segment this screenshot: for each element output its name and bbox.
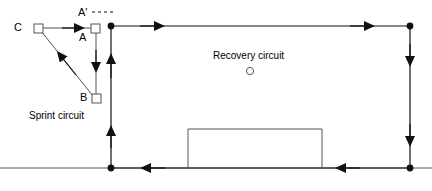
track-corner-dots xyxy=(108,23,414,172)
corner-dot-top-left xyxy=(108,23,115,30)
sprint-circuit xyxy=(34,12,116,103)
infield-box xyxy=(188,129,322,168)
sprint-node-b-marker xyxy=(92,94,101,103)
circuit-diagram-svg xyxy=(0,0,432,191)
label-node-c: C xyxy=(14,22,22,33)
label-node-a: A xyxy=(79,32,86,43)
label-sprint-circuit: Sprint circuit xyxy=(29,111,84,121)
label-recovery-circuit: Recovery circuit xyxy=(213,51,284,61)
label-node-b: B xyxy=(80,92,87,103)
sprint-node-a-marker xyxy=(91,24,100,33)
diagram-canvas: C A A' B Sprint circuit Recovery circuit xyxy=(0,0,432,191)
recovery-circuit-marker xyxy=(246,67,253,74)
corner-dot-top-right xyxy=(407,23,414,30)
track-direction-arrows xyxy=(111,26,410,168)
corner-dot-bottom-right xyxy=(407,165,414,172)
sprint-arrow-b-to-c xyxy=(60,55,76,75)
sprint-node-c-marker xyxy=(34,24,43,33)
cone-circle-icon xyxy=(246,67,253,74)
outer-track xyxy=(0,26,432,168)
corner-dot-bottom-left xyxy=(108,165,115,172)
label-node-a-prime: A' xyxy=(78,7,87,18)
infield-box-outline xyxy=(188,129,322,168)
